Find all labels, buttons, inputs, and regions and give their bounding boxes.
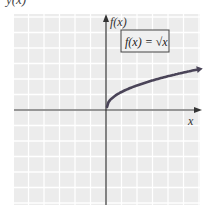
x-axis-label: x: [187, 114, 194, 128]
y-axis-label: f(x): [110, 15, 127, 29]
function-label-box: f(x) = √x: [121, 30, 169, 52]
sqrt-function-graph: f(x) x f(x) = √x: [0, 0, 205, 207]
function-label: f(x) = √x: [125, 35, 168, 49]
